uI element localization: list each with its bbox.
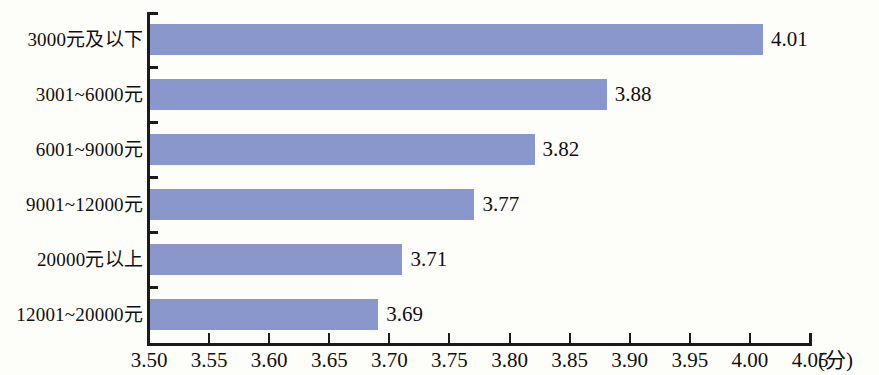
category-label: 12001~20000元 bbox=[0, 305, 143, 324]
x-axis-tick bbox=[689, 333, 691, 344]
x-axis-tick bbox=[208, 333, 210, 344]
bar-value-label: 3.88 bbox=[615, 84, 652, 105]
x-axis-tick bbox=[749, 333, 751, 344]
x-axis-tick bbox=[629, 333, 631, 344]
x-axis-tick bbox=[388, 333, 390, 344]
x-axis-unit-label: (分) bbox=[818, 350, 853, 371]
x-axis-tick bbox=[809, 333, 811, 344]
y-axis-category-tick bbox=[147, 66, 158, 69]
bar bbox=[150, 134, 535, 165]
x-axis-tick bbox=[268, 333, 270, 344]
bar-value-label: 3.71 bbox=[410, 249, 447, 270]
x-axis-tick bbox=[328, 333, 330, 344]
category-label: 3000元及以下 bbox=[0, 30, 143, 49]
x-axis-tick bbox=[448, 333, 450, 344]
bar bbox=[150, 24, 763, 55]
y-axis-category-tick bbox=[147, 286, 158, 289]
y-axis-category-tick bbox=[147, 176, 158, 179]
category-label: 9001~12000元 bbox=[0, 195, 143, 214]
category-label: 3001~6000元 bbox=[0, 85, 143, 104]
bar-value-label: 4.01 bbox=[771, 29, 808, 50]
bar-value-label: 3.77 bbox=[482, 194, 519, 215]
bar-value-label: 3.69 bbox=[386, 304, 423, 325]
bar bbox=[150, 79, 607, 110]
bar bbox=[150, 189, 474, 220]
category-label: 6001~9000元 bbox=[0, 140, 143, 159]
y-axis-category-tick bbox=[147, 231, 158, 234]
bar-value-label: 3.82 bbox=[543, 139, 580, 160]
x-axis-line bbox=[147, 343, 812, 346]
bar-chart: 3.503.553.603.653.703.753.803.853.903.95… bbox=[0, 0, 879, 375]
bar bbox=[150, 299, 378, 330]
category-label: 20000元以上 bbox=[0, 250, 143, 269]
y-axis-category-tick bbox=[147, 121, 158, 124]
x-axis-tick bbox=[148, 333, 150, 344]
bar bbox=[150, 244, 402, 275]
y-axis-top-cap-tick bbox=[147, 12, 158, 15]
x-axis-tick bbox=[509, 333, 511, 344]
x-axis-tick bbox=[569, 333, 571, 344]
